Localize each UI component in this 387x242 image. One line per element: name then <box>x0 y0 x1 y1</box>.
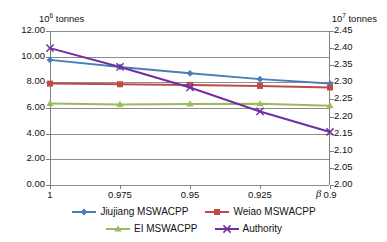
data-point-marker-square <box>117 81 123 87</box>
legend-marker-icon <box>214 223 240 235</box>
data-point-marker-diamond <box>47 56 54 63</box>
data-point-marker-square <box>257 83 263 89</box>
x-axis-label: β <box>316 188 321 199</box>
legend-marker-icon <box>105 223 131 235</box>
legend-item-label: Jiujiang MSWACPP <box>100 206 188 217</box>
data-point-marker-diamond <box>81 208 88 215</box>
series-line <box>50 48 330 132</box>
series-ei-mswacpp <box>46 100 333 108</box>
chart-legend: Jiujiang MSWACPPWeiao MSWACPPEI MSWACPPA… <box>0 203 387 237</box>
data-point-marker-square <box>327 84 333 90</box>
legend-marker-icon <box>71 206 97 218</box>
data-point-marker-square <box>214 209 220 215</box>
legend-row: EI MSWACPPAuthority <box>0 220 387 237</box>
legend-item-ei-mswacpp[interactable]: EI MSWACPP <box>105 223 198 235</box>
legend-marker-icon <box>204 206 230 218</box>
data-point-marker-diamond <box>187 70 194 77</box>
series-authority <box>46 45 333 136</box>
legend-item-label: EI MSWACPP <box>134 223 198 234</box>
series-weiao-mswacpp <box>47 81 333 91</box>
legend-row: Jiujiang MSWACPPWeiao MSWACPP <box>0 203 387 220</box>
legend-item-authority[interactable]: Authority <box>214 223 282 235</box>
legend-item-weiao-mswacpp[interactable]: Weiao MSWACPP <box>204 206 315 218</box>
chart-figure: 106 tonnes 107 tonnes 12.0010.008.006.00… <box>0 0 387 242</box>
legend-item-label: Authority <box>243 223 282 234</box>
data-point-marker-diamond <box>257 76 264 83</box>
legend-item-jiujiang-mswacpp[interactable]: Jiujiang MSWACPP <box>71 206 188 218</box>
legend-item-label: Weiao MSWACPP <box>233 206 315 217</box>
data-point-marker-square <box>47 81 53 87</box>
